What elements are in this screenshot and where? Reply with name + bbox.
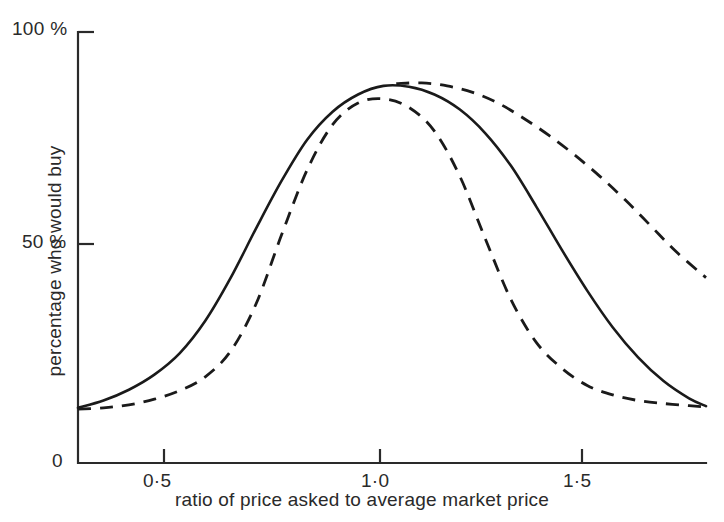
series-dashed-upper-branch	[396, 83, 706, 278]
axis-lines-path	[78, 32, 706, 463]
x-axis-ticks	[164, 449, 582, 463]
y-axis-title: percentage who would buy	[44, 111, 66, 411]
y-tick-label-0: 0	[52, 450, 63, 472]
plot-area	[0, 0, 724, 522]
chart-figure: 100 % 50 % 0 0·5 1·0 1·5 percentage who …	[0, 0, 724, 522]
y-axis-ticks	[78, 32, 94, 244]
series-dashed-curve	[78, 99, 706, 410]
x-axis-title: ratio of price asked to average market p…	[0, 489, 724, 511]
data-series-group	[78, 83, 706, 409]
series-solid-curve	[78, 85, 706, 408]
y-tick-label-100: 100 %	[12, 18, 67, 40]
axis-lines	[78, 32, 706, 463]
